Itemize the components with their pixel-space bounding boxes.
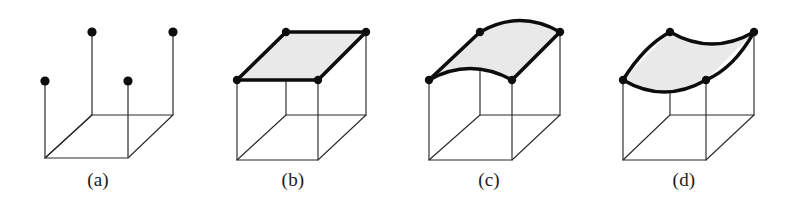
corner-dot-back-left-c [476, 28, 484, 36]
corner-dot-front-left-b [233, 76, 241, 84]
corner-dot-back-left-d [666, 28, 674, 36]
corner-dot-back-left-a [87, 27, 96, 36]
corner-dot-front-right-c [508, 76, 516, 84]
panel-a-stems [45, 32, 173, 158]
corner-dot-front-right-d [702, 76, 710, 84]
panel-a-base-frame [45, 115, 173, 158]
panel-a: (a) [40, 27, 177, 191]
corner-dot-back-right-b [362, 28, 370, 36]
panel-a-corner-dots [40, 27, 177, 85]
panel-caption-d: (d) [673, 169, 696, 191]
base-parallelogram-a [45, 115, 173, 158]
box-bottom-face-d [623, 115, 754, 160]
figure-illustration: (a) (b) [0, 0, 785, 203]
base-left-side-a [45, 115, 92, 158]
corner-dot-front-right-b [314, 76, 322, 84]
box-bottom-face-b [237, 115, 366, 160]
top-surface-fill-b [237, 32, 366, 80]
corner-dot-front-left-d [619, 76, 627, 84]
corner-dot-back-right-a [168, 27, 177, 36]
panel-b: (b) [233, 28, 370, 191]
panel-caption-a: (a) [87, 169, 109, 191]
corner-dot-back-right-d [750, 28, 758, 36]
panel-caption-b: (b) [282, 169, 305, 191]
corner-dot-back-right-c [556, 28, 564, 36]
figure-container: (a) (b) [0, 0, 785, 203]
panel-c: (c) [425, 21, 564, 192]
panel-d: (d) [619, 28, 758, 191]
corner-dot-back-left-b [282, 28, 290, 36]
corner-dot-front-left-c [425, 76, 433, 84]
box-bottom-face-c [429, 115, 560, 160]
corner-dot-front-right-a [123, 76, 132, 85]
panel-caption-c: (c) [478, 169, 500, 191]
corner-dot-front-left-a [40, 76, 49, 85]
